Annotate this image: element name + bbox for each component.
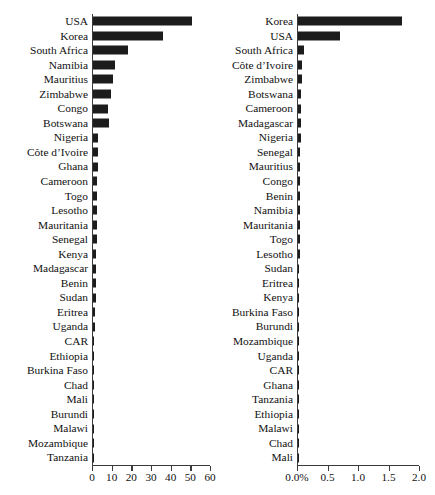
bar-row: Ethiopia [215,407,435,422]
bar-category-label: Tanzania [215,392,297,407]
bar-category-label: Mozambique [0,436,92,451]
bar-track [297,305,435,320]
bar-category-label: Lesotho [0,203,92,218]
bar-track [92,101,215,116]
bar-category-label: Kenya [215,290,297,305]
bar-row: Mali [0,392,215,407]
bar-row: Zimbabwe [215,72,435,87]
bar-row: Ethiopia [0,349,215,364]
bar-category-label: Côte d’Ivoire [215,58,297,73]
bar-track [92,276,215,291]
bar-row: Benin [0,276,215,291]
bar [92,60,115,69]
bar-track [92,261,215,276]
x-axis-tick-label: 0 [89,471,95,483]
bar-category-label: Eritrea [215,276,297,291]
bar-category-label: Burundi [0,407,92,422]
bar-category-label: Eritrea [0,305,92,320]
bar-track [92,305,215,320]
bar-row: Cameroon [0,174,215,189]
bar-row: Malawi [0,421,215,436]
bar-row: Madagascar [0,261,215,276]
bar-track [297,145,435,160]
x-axis-tick [171,466,172,471]
bar-track [92,145,215,160]
bar-track [297,392,435,407]
bar-track [92,363,215,378]
bar-category-label: CAR [215,363,297,378]
bar-track [297,174,435,189]
bar-category-label: Madagascar [0,261,92,276]
bar-track [297,290,435,305]
bar-row: Tanzania [215,392,435,407]
bar-track [92,218,215,233]
bar-category-label: Ethiopia [215,407,297,422]
x-axis-tick-label: 50 [185,471,196,483]
bar-row: Côte d’Ivoire [0,145,215,160]
bar-category-label: Senegal [215,145,297,160]
bar-row: Mauritania [215,218,435,233]
x-axis-tick [131,466,132,471]
bar-track [297,29,435,44]
bar-track [92,130,215,145]
bar-row: CAR [215,363,435,378]
bar-row: Namibia [215,203,435,218]
bar-row: Burkina Faso [215,305,435,320]
bar-category-label: Botswana [0,116,92,131]
bar [92,46,128,55]
bar-row: CAR [0,334,215,349]
bar-track [92,421,215,436]
bar-category-label: Mauritius [215,159,297,174]
bar-row: Korea [215,14,435,29]
left-y-axis-line [92,14,93,465]
bar-category-label: Chad [0,378,92,393]
bar-row: Ghana [0,159,215,174]
bar-category-label: Korea [0,29,92,44]
bar-row: Chad [215,436,435,451]
left-x-axis-ticks: 0102030405060 [92,466,210,490]
bar-track [92,450,215,465]
bar-category-label: Senegal [0,232,92,247]
bar-category-label: Ghana [0,159,92,174]
bar [92,17,192,26]
bar-row: Botswana [0,116,215,131]
bar-track [92,174,215,189]
bar-row: Mali [215,450,435,465]
bar-row: Sudan [0,290,215,305]
bar-row: Tanzania [0,450,215,465]
bar-category-label: USA [215,29,297,44]
bar-track [92,247,215,262]
bar-category-label: Tanzania [0,450,92,465]
bar-row: Mozambique [0,436,215,451]
x-axis-tick [297,466,298,471]
x-axis-tick [190,466,191,471]
bar-track [297,276,435,291]
bar [297,17,402,26]
bar-track [92,159,215,174]
bar-track [297,334,435,349]
bar-category-label: Sudan [215,261,297,276]
bar-track [297,72,435,87]
bar-category-label: Togo [0,189,92,204]
bar-category-label: Togo [215,232,297,247]
bar-row: South Africa [215,43,435,58]
bar-category-label: Namibia [0,58,92,73]
bar-row: Benin [215,189,435,204]
bar-track [92,378,215,393]
bar-category-label: Botswana [215,87,297,102]
bar-row: Burundi [0,407,215,422]
bar-track [297,203,435,218]
bar-track [92,392,215,407]
bar-track [297,421,435,436]
bar-row: Togo [215,232,435,247]
bar-track [297,247,435,262]
bar-row: Kenya [0,247,215,262]
right-x-axis-ticks: 0.0%0.51.01.52.0 [297,466,419,490]
bar-track [297,116,435,131]
bar-row: Korea [0,29,215,44]
x-axis-tick-label: 1.5 [382,471,396,483]
bar-category-label: Congo [215,174,297,189]
bar-row: South Africa [0,43,215,58]
bar-track [92,334,215,349]
bar-track [92,87,215,102]
